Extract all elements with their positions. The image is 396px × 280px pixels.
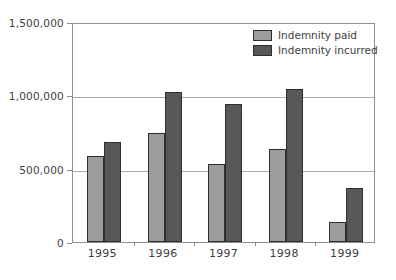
x-axis: 1995 1996 1997 1998 1999: [72, 247, 375, 269]
x-tick-label-1996: 1996: [133, 247, 194, 260]
bar-1999-indemnity-incurred[interactable]: [346, 188, 363, 242]
x-tick-label-1998: 1998: [254, 247, 315, 260]
bar-group-1995: [73, 24, 134, 242]
bar-1995-indemnity-incurred[interactable]: [104, 142, 121, 242]
legend-item-indemnity-paid[interactable]: Indemnity paid: [253, 29, 378, 41]
bar-1998-indemnity-paid[interactable]: [269, 149, 286, 242]
plot-area: Indemnity paid Indemnity incurred: [72, 23, 375, 243]
bar-group-1998: [255, 24, 316, 242]
bar-chart: 1,500,000 1,000,000 500,000 0: [0, 0, 396, 280]
legend-item-indemnity-incurred[interactable]: Indemnity incurred: [253, 44, 378, 56]
bar-1998-indemnity-incurred[interactable]: [286, 89, 303, 242]
x-tick-label-1995: 1995: [72, 247, 133, 260]
legend-swatch-indemnity-incurred: [253, 45, 272, 56]
y-tick-label-1000000: 1,000,000: [0, 90, 64, 102]
y-tick-mark-0: [67, 243, 72, 244]
bar-group-1997: [194, 24, 255, 242]
legend-label-indemnity-paid: Indemnity paid: [278, 30, 357, 41]
x-tick-mark-1996: [194, 242, 195, 246]
bar-1996-indemnity-paid[interactable]: [148, 133, 165, 242]
y-tick-label-1500000: 1,500,000: [0, 17, 64, 29]
y-tick-label-500000: 500,000: [0, 164, 64, 176]
bar-1995-indemnity-paid[interactable]: [87, 156, 104, 242]
bar-group-1996: [134, 24, 195, 242]
x-tick-label-1999: 1999: [314, 247, 375, 260]
bar-1997-indemnity-paid[interactable]: [208, 164, 225, 242]
y-tick-label-0: 0: [0, 237, 64, 249]
x-tick-mark-1998: [315, 242, 316, 246]
bar-1999-indemnity-paid[interactable]: [329, 222, 346, 242]
bar-1996-indemnity-incurred[interactable]: [165, 92, 182, 242]
bar-group-1999: [315, 24, 376, 242]
x-tick-label-1997: 1997: [193, 247, 254, 260]
legend-swatch-indemnity-paid: [253, 30, 272, 41]
legend-label-indemnity-incurred: Indemnity incurred: [278, 45, 378, 56]
x-tick-mark-1995: [134, 242, 135, 246]
x-tick-mark-1997: [255, 242, 256, 246]
chart-legend: Indemnity paid Indemnity incurred: [253, 29, 378, 56]
bar-1997-indemnity-incurred[interactable]: [225, 104, 242, 242]
